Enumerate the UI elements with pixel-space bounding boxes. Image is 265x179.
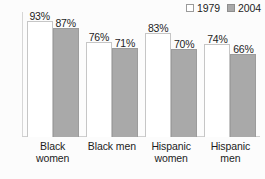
bar-black-men-2004[interactable]: 71% [112,48,138,137]
x-label-black-men: Black men [82,140,141,164]
bar-groups: 93% 87% 76% 71% [23,12,260,137]
bar-slot-hispanic-men-1979: 74% [204,12,230,137]
bar-group-hispanic-men: 74% 66% [201,12,260,137]
x-label-black-men-line1: Black men [82,140,141,152]
bar-value-hispanic-women-2004: 70% [174,39,194,50]
bar-hispanic-men-2004[interactable]: 66% [230,54,256,137]
bar-value-hispanic-men-1979: 74% [207,34,227,45]
bar-value-hispanic-men-2004: 66% [233,44,253,55]
bar-hispanic-women-2004[interactable]: 70% [171,49,197,137]
bar-value-black-men-2004: 71% [115,38,135,49]
bar-black-men-1979[interactable]: 76% [86,42,112,137]
bar-value-black-women-2004: 87% [55,18,75,29]
bar-hispanic-men-1979[interactable]: 74% [204,44,230,137]
bar-value-black-women-1979: 93% [29,11,49,22]
x-label-black-women-line2: women [23,152,82,164]
bar-slot-black-women-2004: 87% [53,12,79,137]
bar-value-black-men-1979: 76% [89,32,109,43]
x-label-black-women: Black women [23,140,82,164]
x-label-hispanic-men: Hispanic men [201,140,260,164]
bar-chart: 1979 2004 93% 87% [0,0,265,179]
bar-slot-hispanic-women-2004: 70% [171,12,197,137]
x-label-black-women-line1: Black [23,140,82,152]
bar-black-women-2004[interactable]: 87% [53,28,79,137]
bar-group-hispanic-women: 83% 70% [142,12,201,137]
bar-group-black-men: 76% 71% [82,12,141,137]
x-label-hispanic-women-line2: women [142,152,201,164]
bar-value-hispanic-women-1979: 83% [148,23,168,34]
bar-group-black-women: 93% 87% [23,12,82,137]
x-label-hispanic-men-line2: men [201,152,260,164]
bar-hispanic-women-1979[interactable]: 83% [145,33,171,137]
x-axis-labels: Black women Black men Hispanic women His… [23,140,260,164]
bar-black-women-1979[interactable]: 93% [27,21,53,137]
bar-slot-hispanic-men-2004: 66% [230,12,256,137]
plot-area: 93% 87% 76% 71% [22,12,260,137]
bar-slot-black-men-2004: 71% [112,12,138,137]
x-label-hispanic-men-line1: Hispanic [201,140,260,152]
bar-slot-black-women-1979: 93% [27,12,53,137]
bar-slot-black-men-1979: 76% [86,12,112,137]
bar-slot-hispanic-women-1979: 83% [145,12,171,137]
x-label-hispanic-women: Hispanic women [142,140,201,164]
x-label-hispanic-women-line1: Hispanic [142,140,201,152]
